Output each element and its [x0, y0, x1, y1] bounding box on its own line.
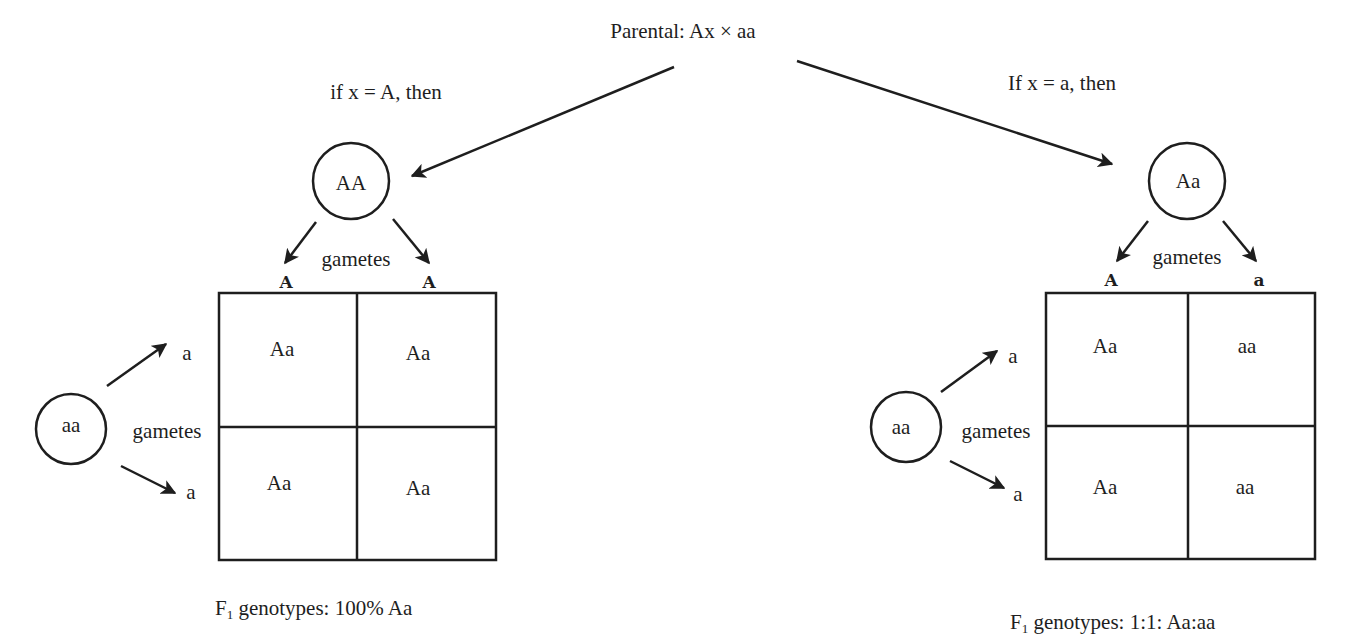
left-cell-r1c1: Aa — [270, 339, 295, 360]
right-parent-genotype: Aa — [1176, 171, 1201, 192]
right-col-gamete-1: A — [1104, 272, 1117, 289]
right-condition: If x = a, then — [1008, 73, 1116, 94]
arrow-to-left-case — [412, 67, 674, 176]
right-cell-r2c2: aa — [1236, 477, 1255, 498]
left-parent-genotype: AA — [336, 173, 366, 194]
right-other-gametes-label: gametes — [962, 421, 1031, 442]
right-cell-r1c1: Aa — [1093, 336, 1118, 357]
right-cell-r1c2: aa — [1238, 336, 1257, 357]
right-other-parent-genotype: aa — [892, 417, 911, 438]
right-parent-gametes-label: gametes — [1153, 247, 1222, 268]
left-col-gamete-1: A — [279, 274, 292, 291]
left-other-parent-genotype: aa — [62, 415, 81, 436]
right-cell-r2c1: Aa — [1093, 477, 1118, 498]
right-row-gamete-2: a — [1013, 484, 1022, 505]
right-result: F1 genotypes: 1:1: Aa:aa — [1010, 612, 1215, 635]
left-result: F1 genotypes: 100% Aa — [215, 598, 412, 621]
left-row-gamete-2: a — [186, 482, 195, 503]
left-condition: if x = A, then — [330, 82, 442, 103]
left-cell-r2c1: Aa — [267, 473, 292, 494]
right-col-gamete-2: a — [1253, 272, 1264, 289]
parental-cross-title: Parental: Ax × aa — [610, 21, 755, 42]
left-parent-gametes-label: gametes — [322, 249, 391, 270]
right-row-gamete-1: a — [1008, 346, 1017, 367]
left-cell-r2c2: Aa — [406, 478, 431, 499]
left-col-gamete-2: A — [422, 274, 435, 291]
left-row-gamete-1: a — [182, 343, 191, 364]
left-other-gametes-label: gametes — [133, 421, 202, 442]
left-cell-r1c2: Aa — [406, 343, 431, 364]
